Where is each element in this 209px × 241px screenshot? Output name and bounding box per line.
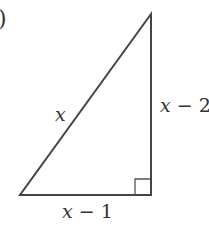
- hypotenuse-label: x: [55, 105, 66, 124]
- right-angle-marker: [135, 179, 151, 195]
- vertical-leg-label: x − 2: [160, 96, 209, 115]
- vertical-leg-variable: x: [160, 94, 171, 116]
- horizontal-leg-variable: x: [62, 200, 73, 222]
- vertical-leg-expression: − 2: [171, 94, 209, 116]
- right-triangle: [20, 14, 151, 195]
- triangle-figure: ) x x − 2 x − 1: [0, 0, 209, 241]
- horizontal-leg-label: x − 1: [62, 202, 113, 221]
- horizontal-leg-expression: − 1: [73, 200, 113, 222]
- hypotenuse-variable: x: [55, 103, 66, 125]
- figure-label-fragment: ): [0, 8, 7, 30]
